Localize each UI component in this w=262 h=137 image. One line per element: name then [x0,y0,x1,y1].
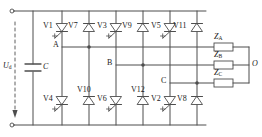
dc-voltage-arrow [12,22,17,118]
device-label-v8: V8 [177,95,187,103]
device-label-v1: V1 [43,22,53,30]
load-label-zc: ZC [214,69,222,77]
dc-positive-terminal [10,9,14,13]
device-v4-thyristor [53,97,68,112]
circuit-diagram-canvas: Ud C V1 V7 V3 V9 V5 V11 V4 V10 V6 V12 V2… [0,0,262,137]
device-label-v2: V2 [151,95,161,103]
load-impedance-zc [214,79,249,87]
phase-node-label-c: C [161,77,166,85]
load-neutral-label: O [252,60,258,68]
device-label-v9: V9 [122,22,132,30]
load-impedance-zb [214,61,249,69]
device-v1-thyristor [53,24,68,39]
device-v10-diode [84,97,95,105]
device-label-v6: V6 [97,95,107,103]
dc-voltage-label: Ud [3,62,12,70]
device-v2-thyristor [161,97,176,112]
phase-a-line [62,45,214,49]
capacitor-label: C [43,63,48,71]
load-label-zb: ZB [214,51,222,59]
device-label-v4: V4 [43,95,53,103]
device-label-v11: V11 [173,22,186,30]
device-v6-thyristor [107,97,122,112]
device-v9-diode [138,24,149,32]
device-v8-diode [192,97,203,105]
load-label-za: ZA [214,33,222,41]
device-v3-thyristor [107,24,122,39]
phase-node-label-a: A [53,41,59,49]
device-label-v10: V10 [77,86,91,94]
device-label-v7: V7 [68,22,78,30]
device-v7-diode [84,24,95,32]
device-v12-diode [138,97,149,105]
phase-b-line [116,63,214,67]
device-v11-diode [192,24,203,32]
phase-c-line [170,81,214,85]
device-label-v5: V5 [151,22,161,30]
device-label-v12: V12 [131,86,145,94]
dc-negative-terminal [10,123,14,127]
load-impedance-za [214,43,249,51]
phase-node-label-b: B [107,59,112,67]
capacitor-branch [25,11,41,125]
device-label-v3: V3 [97,22,107,30]
